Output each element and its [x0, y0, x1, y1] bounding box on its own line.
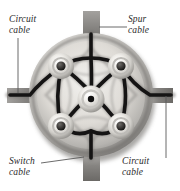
terminal-center [78, 86, 105, 113]
label-switch-cable: Switch cable [9, 156, 35, 177]
terminal-top-left [48, 53, 74, 79]
label-circuit-cable-bottom-right: Circuit cable [122, 156, 149, 177]
terminal-bottom-left [48, 113, 74, 139]
label-spur-cable: Spur cable [128, 14, 149, 35]
label-circuit-cable-top-left: Circuit cable [9, 14, 36, 35]
terminal-bottom-right [108, 113, 134, 139]
terminal-top-right [108, 53, 134, 79]
